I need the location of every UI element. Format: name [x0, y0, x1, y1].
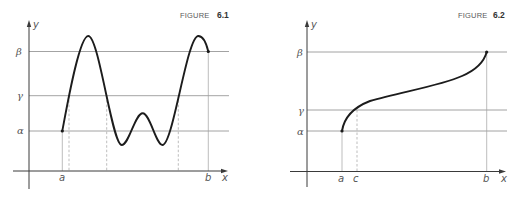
y-axis-arrow-icon: [27, 20, 31, 27]
a-label: a: [59, 172, 65, 183]
start-point: [340, 129, 343, 132]
b-label: b: [483, 173, 489, 184]
start-point: [61, 129, 64, 132]
alpha-label: α: [17, 125, 24, 136]
gamma-label: γ: [17, 90, 23, 101]
end-point: [207, 50, 210, 53]
figure-caption-number: 6.1: [217, 10, 229, 20]
function-curve: [62, 36, 208, 145]
a-label: a: [338, 173, 344, 184]
gamma-label: γ: [298, 105, 304, 116]
y-axis-arrow-icon: [305, 20, 309, 27]
x-axis-label: x: [500, 173, 507, 184]
figures-canvas: FIGURE 6.1 y x β γ α a b FIGURE 6.2: [0, 0, 524, 197]
end-point: [485, 50, 488, 53]
figure-caption-word: FIGURE: [180, 11, 210, 20]
figure-6-2: FIGURE 6.2 y x β γ α a c b: [290, 10, 507, 187]
c-label: c: [353, 173, 359, 184]
beta-label: β: [296, 47, 303, 58]
figure-caption-word: FIGURE: [458, 11, 488, 20]
alpha-label: α: [297, 126, 304, 137]
x-axis-label: x: [221, 172, 228, 183]
figure-6-1: FIGURE 6.1 y x β γ α a b: [13, 10, 229, 189]
b-label: b: [205, 172, 211, 183]
y-axis-label: y: [32, 19, 40, 30]
beta-label: β: [15, 46, 22, 57]
y-axis-label: y: [310, 19, 318, 30]
function-curve: [342, 52, 487, 131]
figure-caption-number: 6.2: [493, 10, 505, 20]
